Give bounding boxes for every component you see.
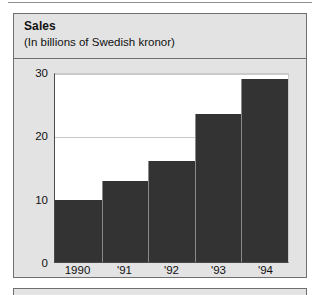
bar-1993 [195, 114, 242, 262]
x-tick-91: '91 [101, 264, 148, 276]
y-axis-labels: 0102030 [14, 60, 50, 278]
y-tick-30: 30 [35, 67, 48, 79]
x-tick-92: '92 [148, 264, 195, 276]
x-axis-labels: 1990'91'92'93'94 [54, 264, 289, 276]
bar-series [55, 74, 288, 262]
y-tick-10: 10 [35, 194, 48, 206]
bar-1992 [148, 161, 195, 262]
y-tick-20: 20 [35, 130, 48, 142]
bar-cell-1992 [148, 74, 195, 262]
panel-header: Sales (In billions of Swedish kronor) [14, 14, 306, 59]
plot-area [54, 73, 289, 263]
x-tick-94: '94 [242, 264, 289, 276]
bar-cell-1990 [55, 74, 102, 262]
page-title: Sales [24, 19, 306, 34]
bar-1990 [55, 200, 102, 262]
top-divider-rule [8, 2, 312, 3]
bar-1994 [241, 79, 288, 262]
panel-subtitle: (In billions of Swedish kronor) [24, 35, 306, 50]
bar-cell-1991 [102, 74, 149, 262]
bar-1991 [102, 181, 149, 262]
chart-area: 0102030 [14, 60, 306, 278]
y-tick-0: 0 [42, 257, 48, 269]
bar-cell-1994 [241, 74, 288, 262]
next-panel-edge [13, 288, 307, 295]
bar-cell-1993 [195, 74, 242, 262]
sales-chart-panel: Sales (In billions of Swedish kronor) 01… [13, 13, 307, 278]
x-tick-1990: 1990 [54, 264, 101, 276]
x-tick-93: '93 [195, 264, 242, 276]
